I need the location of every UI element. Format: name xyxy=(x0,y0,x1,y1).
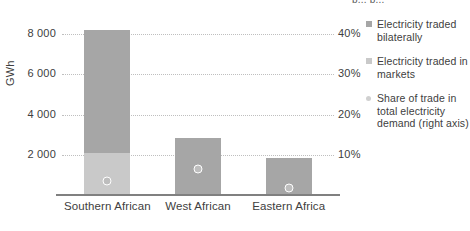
share-marker[interactable] xyxy=(194,164,203,173)
share-marker[interactable] xyxy=(284,184,293,193)
secondary-y-axis-tick-label: 20% xyxy=(338,108,361,120)
chart-legend: Electricity traded bilaterallyElectricit… xyxy=(366,18,470,142)
square-swatch-markets-icon xyxy=(366,58,372,64)
bar-column[interactable] xyxy=(266,14,312,195)
clipped-title-fragment: p... p... xyxy=(352,0,470,3)
circle-swatch-share-icon xyxy=(366,96,371,101)
category-axis-line xyxy=(56,194,340,196)
category-labels: Southern AfricanWest AfricanEastern Afri… xyxy=(56,200,340,220)
legend-item-label: Share of trade in total electricity dema… xyxy=(377,92,469,129)
legend-item[interactable]: Electricity traded in markets xyxy=(366,55,470,80)
secondary-y-axis-tick-label: 40% xyxy=(338,27,361,39)
category-label: West African xyxy=(165,200,231,212)
y-axis-tick-label: 6 000 xyxy=(2,67,56,79)
legend-item[interactable]: Electricity traded bilaterally xyxy=(366,18,470,43)
plot-area xyxy=(62,14,334,195)
chart-container: p... p... GWh 2 0004 0006 0008 000 10%20… xyxy=(0,0,470,231)
category-label: Southern African xyxy=(64,200,151,212)
legend-item-label: Electricity traded in markets xyxy=(377,55,468,80)
secondary-y-axis-tick-label: 10% xyxy=(338,148,361,160)
y-axis-tick-label: 4 000 xyxy=(2,108,56,120)
y-axis-tick-label: 2 000 xyxy=(2,148,56,160)
y-axis-ticks: 2 0004 0006 0008 000 xyxy=(0,14,56,195)
secondary-y-axis-ticks: 10%20%30%40% xyxy=(334,14,368,195)
legend-item[interactable]: Share of trade in total electricity dema… xyxy=(366,92,470,130)
square-swatch-bilateral-icon xyxy=(366,21,372,27)
legend-item-label: Electricity traded bilaterally xyxy=(377,18,456,43)
bar-column[interactable] xyxy=(84,14,130,195)
bar-segment[interactable] xyxy=(84,153,130,195)
bar-segment[interactable] xyxy=(84,30,130,153)
category-label: Eastern Africa xyxy=(252,200,325,212)
share-marker[interactable] xyxy=(103,176,112,185)
y-axis-tick-label: 8 000 xyxy=(2,27,56,39)
secondary-y-axis-tick-label: 30% xyxy=(338,67,361,79)
